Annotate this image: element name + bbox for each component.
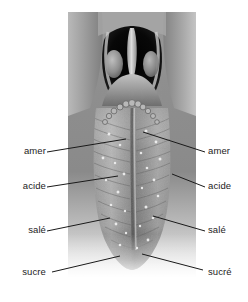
tonsil-right — [143, 51, 159, 77]
bottom-fade — [68, 162, 196, 278]
label-acide-right: acide — [208, 180, 248, 191]
label-sale-right: salé — [208, 224, 248, 235]
label-amer-right: amer — [208, 145, 248, 156]
label-sucre-left: sucre — [4, 266, 46, 277]
tongue-photograph-svg — [68, 12, 196, 278]
label-sale-left: salé — [4, 224, 46, 235]
tonsil-left — [105, 50, 123, 78]
uvula — [127, 28, 137, 77]
tongue-taste-zones-figure: amer acide salé sucre amer acide salé su… — [0, 0, 248, 302]
label-sucre-right: sucré — [208, 266, 248, 277]
tongue-photograph — [68, 12, 196, 278]
label-amer-left: amer — [4, 145, 46, 156]
label-acide-left: acide — [4, 180, 46, 191]
